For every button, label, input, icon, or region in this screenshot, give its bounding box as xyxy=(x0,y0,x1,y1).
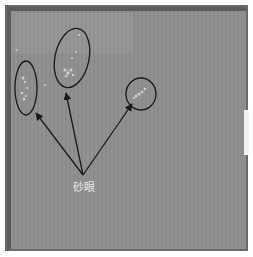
arrow-right xyxy=(83,104,132,175)
annotation-label: 砂眼 xyxy=(73,178,95,194)
annotation-overlay xyxy=(0,0,253,257)
arrow-middle xyxy=(66,93,83,175)
